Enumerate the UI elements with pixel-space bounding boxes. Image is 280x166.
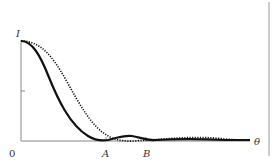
y-axis-label: I — [15, 28, 21, 39]
intensity-diagram: I θ 0 A B — [0, 0, 280, 166]
x-axis-label: θ — [254, 136, 260, 147]
origin-label: 0 — [9, 148, 15, 159]
marker-a-label: A — [101, 148, 109, 159]
marker-b-label: B — [142, 148, 150, 159]
solid-curve — [21, 41, 250, 141]
